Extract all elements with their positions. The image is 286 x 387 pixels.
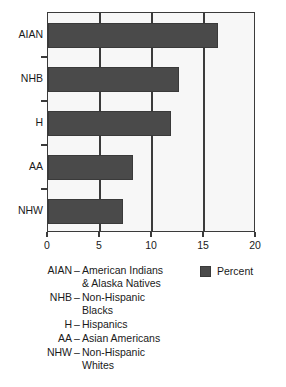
y-minor-tick-3 [41, 144, 47, 146]
bar-chart: AIANNHBHAANHW 05101520 [0, 0, 286, 252]
key-row-nhw: NHW–Non-HispanicWhites [36, 346, 192, 372]
key-row-nhb: NHB–Non-HispanicBlacks [36, 291, 192, 317]
key-dash: – [72, 291, 82, 304]
bar-nhw [48, 199, 123, 224]
key-desc-aa: Asian Americans [82, 332, 192, 345]
x-tick-label-20: 20 [235, 239, 275, 251]
x-tick-20 [254, 232, 256, 237]
key-desc-nhb: Non-HispanicBlacks [82, 291, 192, 317]
abbreviation-key: AIAN–American Indians& Alaska NativesNHB… [36, 264, 192, 373]
bar-series-percent [48, 13, 254, 231]
y-minor-tick-1 [41, 56, 47, 58]
key-desc-h: Hispanics [82, 318, 192, 331]
legend: Percent [200, 266, 253, 277]
key-desc-aian: American Indians& Alaska Natives [82, 264, 192, 290]
x-tick-label-15: 15 [183, 239, 223, 251]
key-desc-line: American Indians [82, 264, 192, 277]
key-dash: – [72, 346, 82, 359]
key-desc-line: Whites [82, 359, 192, 372]
key-desc-line: Hispanics [82, 318, 192, 331]
key-abbr-aa: AA [36, 332, 72, 345]
y-minor-tick-2 [41, 100, 47, 102]
key-row-aian: AIAN–American Indians& Alaska Natives [36, 264, 192, 290]
key-row-aa: AA–Asian Americans [36, 332, 192, 345]
plot-area [47, 12, 255, 232]
bar-h [48, 111, 171, 136]
key-abbr-h: H [36, 318, 72, 331]
x-tick-label-5: 5 [79, 239, 119, 251]
key-dash: – [72, 264, 82, 277]
key-dash: – [72, 332, 82, 345]
x-tick-15 [202, 232, 204, 237]
legend-swatch-percent [200, 266, 211, 277]
key-desc-line: Non-Hispanic [82, 346, 192, 359]
key-abbr-aian: AIAN [36, 264, 72, 277]
key-desc-line: Blacks [82, 304, 192, 317]
x-tick-label-0: 0 [27, 239, 67, 251]
key-desc-nhw: Non-HispanicWhites [82, 346, 192, 372]
y-label-aa: AA [0, 161, 43, 172]
y-label-h: H [0, 117, 43, 128]
y-label-nhb: NHB [0, 73, 43, 84]
bar-aian [48, 23, 218, 48]
key-dash: – [72, 318, 82, 331]
x-tick-10 [150, 232, 152, 237]
key-abbr-nhb: NHB [36, 291, 72, 304]
key-abbr-nhw: NHW [36, 346, 72, 359]
y-minor-tick-4 [41, 188, 47, 190]
bar-aa [48, 155, 133, 180]
legend-label-percent: Percent [217, 266, 253, 277]
chart-page: AIANNHBHAANHW 05101520 Percent AIAN–Amer… [0, 0, 286, 387]
key-row-h: H–Hispanics [36, 318, 192, 331]
key-desc-line: & Alaska Natives [82, 277, 192, 290]
x-tick-5 [98, 232, 100, 237]
x-tick-0 [46, 232, 48, 237]
key-desc-line: Non-Hispanic [82, 291, 192, 304]
x-tick-label-10: 10 [131, 239, 171, 251]
bar-nhb [48, 67, 179, 92]
y-label-nhw: NHW [0, 205, 43, 216]
y-label-aian: AIAN [0, 29, 43, 40]
key-desc-line: Asian Americans [82, 332, 192, 345]
